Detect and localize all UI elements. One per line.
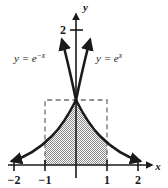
x-tick-label-1: 1 [104,173,110,187]
right-curve-label: y = ex [95,51,123,64]
right-curve-label-text: y = e [95,52,119,64]
svg-text:y = e−x: y = e−x [13,51,46,64]
y-axis-label: y [81,1,88,13]
x-axis-label: x [154,160,161,172]
x-tick-label--2: −2 [8,173,21,187]
figure-container: y x −2 −1 1 2 2 y = e−x y = ex [0,0,168,188]
exponential-graph: y x −2 −1 1 2 2 y = e−x y = ex [0,0,168,188]
y-tick-label-2: 2 [60,23,66,37]
right-curve-label-exponent: x [118,51,123,60]
x-tick-label-2: 2 [135,173,141,187]
left-curve-label-exponent: −x [37,51,46,60]
left-curve-label-text: y = e [13,52,37,64]
svg-text:y = ex: y = ex [95,51,123,64]
left-curve-label: y = e−x [13,51,46,64]
x-tick-label--1: −1 [39,173,52,187]
